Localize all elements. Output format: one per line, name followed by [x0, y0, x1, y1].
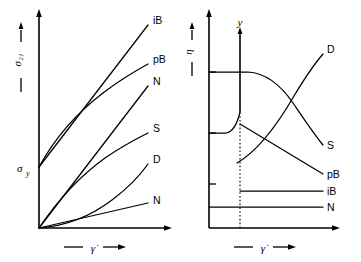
- curve-pb-after-yield: [240, 124, 323, 174]
- curve-pb: [39, 64, 148, 167]
- left-y-axis-label-group: σ₂₁: [11, 22, 23, 92]
- yield-stress-label: σ y: [17, 162, 30, 178]
- label-pb: pB: [327, 168, 340, 180]
- label-d: D: [153, 153, 161, 165]
- label-d: D: [327, 43, 335, 55]
- curve-s: [39, 133, 148, 228]
- curve-s: [209, 72, 323, 145]
- curve-pb: [209, 112, 240, 133]
- label-s: S: [327, 139, 334, 151]
- label-s: S: [153, 122, 160, 134]
- left-x-axis-label: γ̇: [91, 242, 99, 254]
- label-n: N: [327, 201, 335, 213]
- viscosity-curve-plot: η y: [180, 0, 361, 262]
- label-ib: iB: [153, 14, 162, 26]
- label-ib: iB: [327, 185, 336, 197]
- label-pb: pB: [153, 53, 166, 65]
- right-x-axis-label-group: γ̇: [234, 242, 296, 254]
- yield-stress-subscript: y: [25, 169, 30, 178]
- yield-point-label: y: [237, 16, 243, 28]
- right-y-axis-label: η: [182, 49, 194, 54]
- curve-ib: [39, 25, 148, 167]
- flow-curve-plot: σ₂₁ σ y iB pB N S: [0, 0, 181, 262]
- curve-d: [237, 54, 323, 163]
- right-x-axis: [209, 225, 340, 231]
- left-x-axis: [39, 225, 172, 231]
- left-y-axis-label: σ₂₁: [11, 53, 23, 66]
- left-x-axis-label-group: γ̇: [64, 242, 126, 254]
- yield-point-marker: y: [237, 16, 243, 112]
- label-n-shallow: N: [153, 194, 161, 206]
- right-y-axis-label-group: η: [182, 22, 194, 76]
- right-y-axis: [206, 9, 212, 228]
- curve-d: [39, 164, 148, 228]
- left-y-axis: [36, 9, 42, 228]
- label-n-steep: N: [153, 75, 161, 87]
- rheology-figure: σ₂₁ σ y iB pB N S: [0, 0, 361, 262]
- right-x-axis-label: γ̇: [261, 242, 269, 254]
- yield-stress-sigma: σ: [17, 162, 23, 174]
